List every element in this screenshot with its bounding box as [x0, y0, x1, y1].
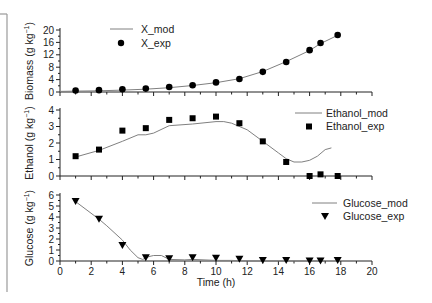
svg-text:4: 4 [48, 212, 54, 223]
svg-text:20: 20 [43, 25, 55, 36]
circle-marker-icon [118, 40, 124, 46]
svg-text:3: 3 [48, 223, 54, 234]
legend-label-ethanol-mod: Ethanol_mod [326, 107, 388, 119]
series-x-exp [72, 32, 341, 94]
svg-text:0: 0 [48, 171, 54, 182]
svg-text:2: 2 [48, 138, 54, 149]
svg-text:1: 1 [48, 154, 54, 165]
svg-text:8: 8 [182, 266, 188, 277]
svg-text:18: 18 [335, 266, 347, 277]
series-ethanol-exp [73, 114, 341, 179]
svg-text:6: 6 [48, 190, 54, 201]
top-axes: 048121620 [43, 25, 372, 98]
ethanol-y-title: Ethanol (g kg−1) [23, 106, 35, 179]
middle-axes: 01234 [48, 105, 372, 182]
middle-panel: 01234 [48, 105, 372, 182]
svg-text:1: 1 [48, 245, 54, 256]
svg-text:12: 12 [242, 266, 254, 277]
square-marker-icon [306, 124, 312, 130]
x-axis-title: Time (h) [197, 276, 236, 288]
biomass-y-title: Biomass (g kg−1) [23, 22, 35, 100]
series-ethanol-mod [76, 122, 332, 162]
svg-text:14: 14 [273, 266, 285, 277]
page-frame-bracket [0, 14, 7, 292]
svg-text:Ethanol (g kg−1): Ethanol (g kg−1) [23, 106, 35, 179]
svg-text:6: 6 [151, 266, 157, 277]
triangle-down-marker-icon [321, 213, 329, 220]
svg-text:16: 16 [304, 266, 316, 277]
multi-panel-chart: Biomass (g kg−1) Ethanol (g kg−1) Glucos… [0, 0, 432, 303]
legend-label-ethanol-exp: Ethanol_exp [326, 120, 385, 132]
legend-label-x-exp: X_exp [141, 37, 171, 49]
svg-text:12: 12 [43, 49, 55, 60]
legend-glucose: Glucose_mod Glucose_exp [312, 197, 408, 222]
svg-text:4: 4 [48, 74, 54, 85]
legend-label-x-mod: X_mod [141, 23, 174, 35]
svg-text:Biomass (g kg−1): Biomass (g kg−1) [23, 22, 35, 100]
svg-text:0: 0 [57, 266, 63, 277]
top-panel: 048121620 [43, 25, 372, 98]
legend-label-glucose-exp: Glucose_exp [343, 210, 404, 222]
svg-text:2: 2 [48, 234, 54, 245]
series-glucose-mod [76, 202, 326, 261]
svg-text:0: 0 [48, 256, 54, 267]
svg-text:16: 16 [43, 37, 55, 48]
legend-ethanol: Ethanol_mod Ethanol_exp [295, 107, 388, 132]
svg-text:3: 3 [48, 121, 54, 132]
legend-biomass: X_mod X_exp [110, 23, 174, 49]
chart-panels: 04812162001234012345602468101214161820 [43, 25, 378, 278]
svg-text:20: 20 [366, 266, 378, 277]
svg-text:8: 8 [48, 62, 54, 73]
legend-label-glucose-mod: Glucose_mod [343, 197, 408, 209]
figure: Biomass (g kg−1) Ethanol (g kg−1) Glucos… [0, 0, 432, 303]
svg-text:2: 2 [88, 266, 94, 277]
glucose-y-title: Glucose (g kg−1) [23, 190, 35, 266]
svg-text:5: 5 [48, 201, 54, 212]
svg-text:0: 0 [48, 87, 54, 98]
series-x-mod [60, 35, 338, 91]
svg-text:Glucose (g kg−1): Glucose (g kg−1) [23, 190, 35, 266]
svg-text:4: 4 [48, 105, 54, 116]
svg-text:4: 4 [120, 266, 126, 277]
